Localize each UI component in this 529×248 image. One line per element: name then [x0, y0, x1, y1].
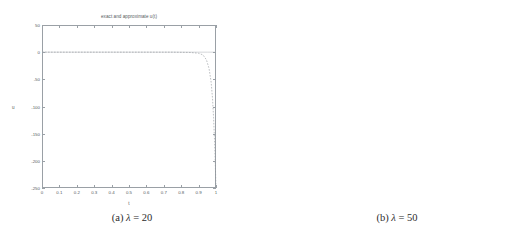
plot-a-yticklabel: -150 — [31, 131, 40, 136]
figure-panel-a: exact and approximate u(t) 00.10.20.30.4… — [0, 0, 264, 248]
plot-a-ytick — [42, 107, 45, 108]
plot-a-xtick — [181, 25, 182, 28]
plot-a-xtick — [181, 185, 182, 188]
plot-a-yticklabel: -50 — [34, 77, 40, 82]
plot-a-xtick — [216, 185, 217, 188]
plot-a-ytick — [42, 25, 45, 26]
caption-b: (b) λ = 50 — [265, 212, 529, 223]
plot-a-xtick — [112, 25, 113, 28]
plot-a-yticklabel: -250 — [31, 186, 40, 191]
plot-a-xtick — [199, 185, 200, 188]
plot-a-xticklabel: 0.2 — [74, 190, 80, 195]
plot-a-xtick — [94, 25, 95, 28]
plot-a-ytick — [213, 134, 216, 135]
figure-panel-b: exact and approximate u(t) x 1032 00.10.… — [265, 0, 529, 248]
plot-a-xtick — [164, 25, 165, 28]
plot-a-xtick — [59, 25, 60, 28]
plot-a-xtick — [129, 185, 130, 188]
plot-a-xtick — [199, 25, 200, 28]
plot-a-ytick — [213, 107, 216, 108]
caption-a-value: = 20 — [133, 212, 152, 223]
plot-a-ytick — [42, 79, 45, 80]
plot-a-ytick — [42, 188, 45, 189]
plot-a-xticklabel: 0.7 — [161, 190, 167, 195]
plot-a-xtick — [216, 25, 217, 28]
caption-b-prefix: (b) — [376, 212, 388, 223]
plot-a-xtick — [164, 185, 165, 188]
plot-a-ytick — [213, 161, 216, 162]
plot-a-xlabel: t — [42, 201, 216, 206]
caption-a-lambda: λ — [126, 212, 131, 223]
plot-a-xtick — [59, 185, 60, 188]
plot-a-yticklabel: 0 — [38, 50, 40, 55]
plot-a-xticklabel: 0.8 — [178, 190, 184, 195]
caption-a-prefix: (a) — [112, 212, 124, 223]
plot-a-ytick — [42, 161, 45, 162]
plot-a-xtick — [146, 185, 147, 188]
plot-a-title: exact and approximate u(t) — [42, 14, 216, 19]
plot-a-ytick — [213, 188, 216, 189]
plot-a-ytick — [42, 52, 45, 53]
caption-b-value: = 50 — [399, 212, 418, 223]
plot-a-series-line — [42, 52, 216, 188]
plot-a-yticklabel: -200 — [31, 158, 40, 163]
plot-a-ylabel: u — [12, 104, 15, 109]
plot-a-xtick — [112, 185, 113, 188]
plot-a-xtick — [146, 25, 147, 28]
plot-a-ytick — [213, 52, 216, 53]
plot-a-xtick — [77, 25, 78, 28]
plot-a-xticklabel: 0 — [41, 190, 43, 195]
figure-container: exact and approximate u(t) 00.10.20.30.4… — [0, 0, 529, 248]
plot-a-xticklabel: 0.3 — [91, 190, 97, 195]
plot-a-xtick — [77, 185, 78, 188]
plot-a-curves — [42, 25, 216, 188]
caption-b-lambda: λ — [391, 212, 396, 223]
plot-a-xticklabel: 0.6 — [143, 190, 149, 195]
caption-a: (a) λ = 20 — [0, 212, 264, 223]
plot-a-ytick — [213, 25, 216, 26]
plot-a-yticklabel: -100 — [31, 104, 40, 109]
plot-a-xticklabel: 0.1 — [56, 190, 62, 195]
plot-a-ytick — [42, 134, 45, 135]
plot-a-ytick — [213, 79, 216, 80]
plot-a-xticklabel: 0.5 — [126, 190, 132, 195]
plot-a-xtick — [94, 185, 95, 188]
plot-a-xticklabel: 1 — [215, 190, 217, 195]
plot-a-series-approx — [42, 52, 216, 188]
plot-a-xticklabel: 0.9 — [196, 190, 202, 195]
plot-a-yticklabel: 50 — [35, 23, 40, 28]
plot-a-xticklabel: 0.4 — [109, 190, 115, 195]
plot-a: exact and approximate u(t) 00.10.20.30.4… — [42, 25, 216, 188]
plot-a-xtick — [129, 25, 130, 28]
